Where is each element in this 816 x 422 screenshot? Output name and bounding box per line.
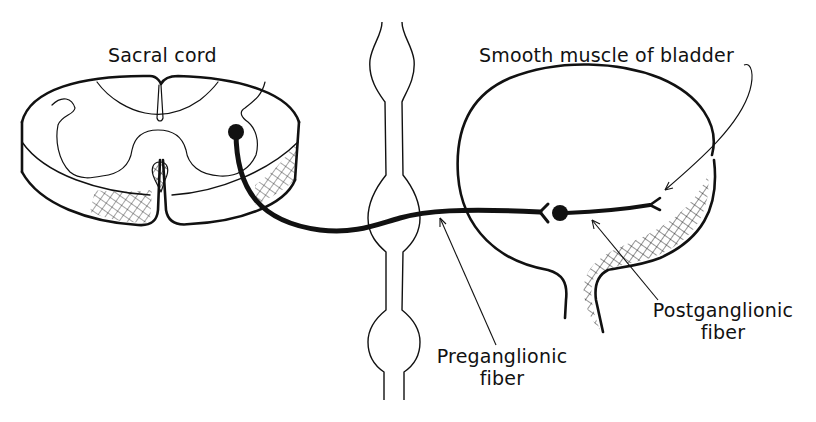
bladder: [458, 64, 715, 332]
label-postganglionic-fiber: Postganglionic fiber: [648, 299, 798, 343]
postganglionic-fiber: [566, 198, 660, 213]
label-preganglionic-line1: Preganglionic: [432, 345, 572, 367]
smooth-muscle-leader: [665, 65, 752, 190]
label-preganglionic-fiber: Preganglionic fiber: [432, 345, 572, 389]
cell-body-cord: [228, 124, 244, 140]
preganglionic-leader: [440, 218, 496, 345]
label-postganglionic-line2: fiber: [648, 321, 798, 343]
label-postganglionic-line1: Postganglionic: [648, 299, 798, 321]
label-preganglionic-line2: fiber: [432, 367, 572, 389]
label-smooth-muscle-of-bladder: Smooth muscle of bladder: [479, 44, 734, 66]
label-sacral-cord: Sacral cord: [108, 44, 217, 66]
sympathetic-chain: [368, 22, 420, 400]
